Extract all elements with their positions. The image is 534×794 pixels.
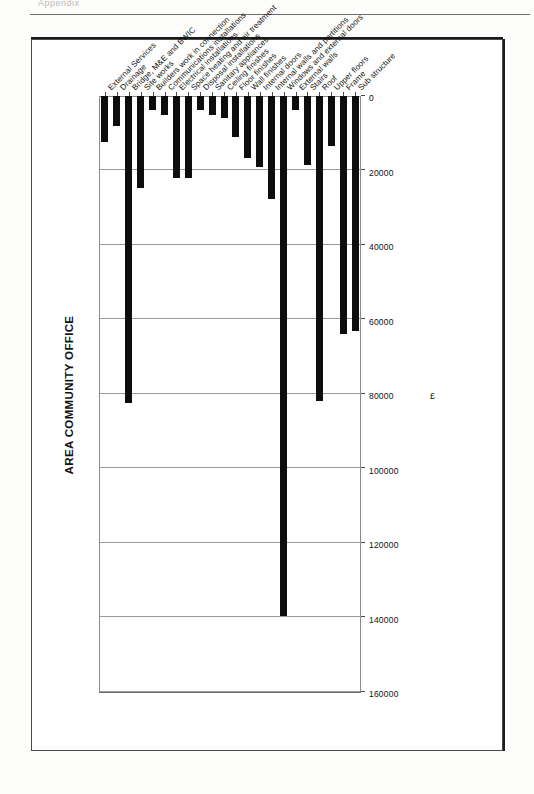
bar	[268, 96, 275, 199]
category-axis-tick	[355, 92, 356, 96]
category-axis-tick	[248, 92, 249, 96]
bar	[113, 96, 120, 126]
page-header-rule	[30, 14, 530, 15]
category-axis-tick	[236, 92, 237, 96]
value-axis-tick	[361, 244, 365, 245]
category-axis-tick	[200, 92, 201, 96]
category-axis-tick	[105, 92, 106, 96]
value-axis-tick	[361, 468, 365, 469]
bar	[280, 96, 287, 616]
bar	[197, 96, 204, 110]
rotated-chart-canvas: AREA COMMUNITY OFFICE 020000400006000080…	[37, 45, 497, 745]
category-axis-tick	[284, 92, 285, 96]
value-axis-tick	[361, 542, 365, 543]
category-axis-tick	[176, 92, 177, 96]
value-axis-tick	[361, 393, 365, 394]
category-axis-tick	[212, 92, 213, 96]
value-axis-ticklabel: 40000	[369, 243, 394, 253]
value-axis-ticklabel: 120000	[369, 541, 399, 551]
page-header-text: Appendix	[38, 0, 80, 8]
bar	[185, 96, 192, 178]
value-axis-tick	[361, 319, 365, 320]
value-axis-ticklabel: 0	[369, 94, 374, 104]
value-axis-title: £	[430, 392, 435, 402]
category-axis-tick	[260, 92, 261, 96]
chart-sheet: AREA COMMUNITY OFFICE 020000400006000080…	[31, 39, 503, 751]
category-axis-tick	[141, 92, 142, 96]
category-axis-tick	[117, 92, 118, 96]
bar	[304, 96, 311, 165]
category-axis-tick	[343, 92, 344, 96]
category-axis-tick	[272, 92, 273, 96]
gridline	[99, 691, 361, 692]
bar	[149, 96, 156, 110]
bar	[101, 96, 108, 142]
gridline	[99, 542, 361, 543]
category-axis-tick	[331, 92, 332, 96]
bar	[292, 96, 299, 110]
category-axis-tick	[307, 92, 308, 96]
category-axis-tick	[188, 92, 189, 96]
category-axis-tick	[319, 92, 320, 96]
value-axis-ticklabel: 80000	[369, 392, 394, 402]
value-axis-ticklabel: 100000	[369, 466, 399, 476]
value-axis-ticklabel: 160000	[369, 690, 399, 700]
category-axis-tick	[165, 92, 166, 96]
category-axis-tick	[129, 92, 130, 96]
bar	[125, 96, 132, 403]
gridline	[99, 617, 361, 618]
bar	[340, 96, 347, 334]
bar	[161, 96, 168, 115]
value-axis-ticklabel: 20000	[369, 168, 394, 178]
bar	[256, 96, 263, 167]
gridline	[99, 468, 361, 469]
bar	[316, 96, 323, 401]
value-axis-tick	[361, 95, 365, 96]
bar	[352, 96, 359, 331]
bar	[173, 96, 180, 178]
bar	[137, 96, 144, 188]
plot-area	[99, 96, 361, 693]
category-axis-tick	[153, 92, 154, 96]
category-axis-tick	[296, 92, 297, 96]
value-axis-tick	[361, 617, 365, 618]
value-axis-tick	[361, 691, 365, 692]
bar	[221, 96, 228, 118]
category-axis-tick	[224, 92, 225, 96]
bar	[209, 96, 216, 115]
bar	[244, 96, 251, 158]
chart-title: AREA COMMUNITY OFFICE	[63, 45, 75, 745]
bar	[232, 96, 239, 137]
scanned-page: Appendix AREA COMMUNITY OFFICE 020000400…	[0, 0, 534, 794]
value-axis-ticklabel: 140000	[369, 615, 399, 625]
value-axis-tick	[361, 170, 365, 171]
bar	[328, 96, 335, 146]
value-axis-ticklabel: 60000	[369, 317, 394, 327]
